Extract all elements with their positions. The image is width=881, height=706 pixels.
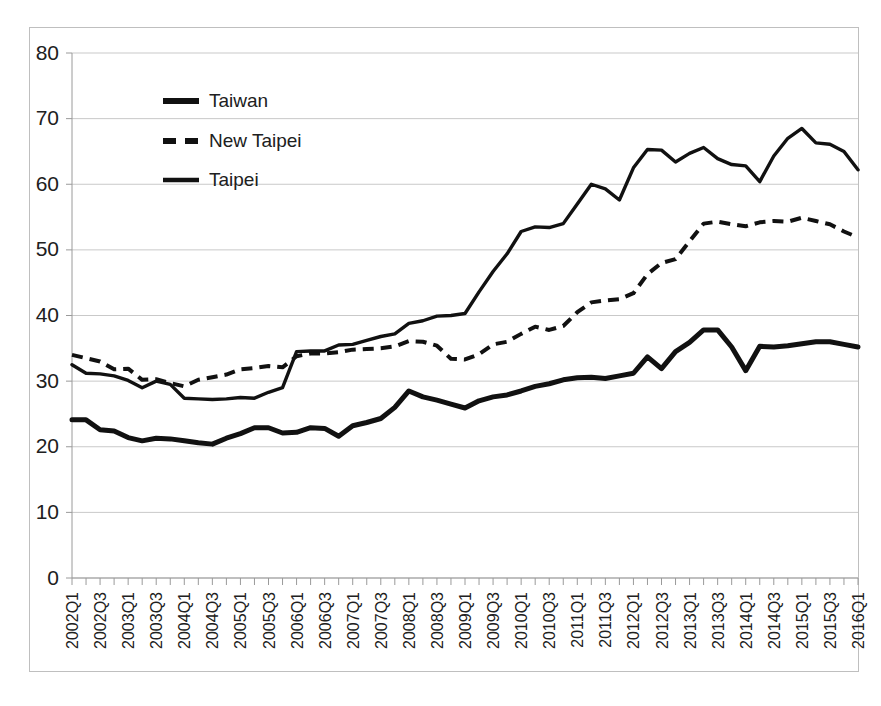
x-tick-label: 2008Q1 xyxy=(401,592,418,649)
x-tick-label: 2012Q3 xyxy=(654,592,671,649)
x-tick-label: 2010Q3 xyxy=(541,592,558,649)
legend-label-taiwan: Taiwan xyxy=(209,90,268,111)
y-tick-label: 80 xyxy=(36,41,59,64)
legend-label-taipei: Taipei xyxy=(209,169,259,190)
x-tick-label: 2015Q3 xyxy=(822,592,839,649)
data-series xyxy=(72,128,858,444)
x-tick-label: 2004Q1 xyxy=(176,592,193,649)
x-tick-label: 2011Q1 xyxy=(569,592,586,648)
x-tick-label: 2007Q3 xyxy=(373,592,390,649)
x-tick-label: 2008Q3 xyxy=(429,592,446,649)
x-tick-label: 2009Q1 xyxy=(457,592,474,649)
x-tick-label: 2007Q1 xyxy=(345,592,362,649)
x-tick-label: 2003Q3 xyxy=(148,592,165,649)
y-tick-label: 30 xyxy=(36,369,59,392)
x-tick-label: 2002Q3 xyxy=(92,592,109,649)
x-tick-label: 2011Q3 xyxy=(597,592,614,648)
y-tick-label: 10 xyxy=(36,500,59,523)
y-tick-label: 70 xyxy=(36,106,59,129)
x-tick-label: 2013Q3 xyxy=(710,592,727,649)
legend-label-new-taipei: New Taipei xyxy=(209,130,302,151)
y-tick-labels: 01020304050607080 xyxy=(36,41,72,589)
x-tick-marks xyxy=(72,578,858,585)
x-tick-label: 2010Q1 xyxy=(513,592,530,649)
x-tick-label: 2016Q1 xyxy=(850,592,867,649)
x-tick-label: 2005Q1 xyxy=(232,592,249,649)
x-tick-label: 2015Q1 xyxy=(794,592,811,649)
x-tick-label: 2014Q3 xyxy=(766,592,783,649)
series-line-taiwan xyxy=(72,330,858,444)
chart-legend: TaiwanNew TaipeiTaipei xyxy=(163,90,302,190)
y-tick-label: 0 xyxy=(47,566,59,589)
chart-container: 2002Q12002Q32003Q12003Q32004Q12004Q32005… xyxy=(0,0,881,706)
y-tick-label: 40 xyxy=(36,303,59,326)
x-tick-label: 2006Q1 xyxy=(289,592,306,649)
x-tick-label: 2004Q3 xyxy=(204,592,221,649)
x-tick-label: 2002Q1 xyxy=(64,592,81,649)
x-tick-label: 2006Q3 xyxy=(317,592,334,649)
x-tick-label: 2009Q3 xyxy=(485,592,502,649)
y-tick-label: 20 xyxy=(36,434,59,457)
x-tick-label: 2014Q1 xyxy=(738,592,755,649)
x-tick-label: 2012Q1 xyxy=(625,592,642,649)
x-tick-label: 2013Q1 xyxy=(682,592,699,649)
gridlines xyxy=(72,53,858,578)
line-chart-plot: 2002Q12002Q32003Q12003Q32004Q12004Q32005… xyxy=(0,0,881,706)
x-tick-label: 2003Q1 xyxy=(120,592,137,649)
x-tick-labels: 2002Q12002Q32003Q12003Q32004Q12004Q32005… xyxy=(64,592,867,649)
y-tick-label: 50 xyxy=(36,237,59,260)
x-tick-label: 2005Q3 xyxy=(261,592,278,649)
y-tick-label: 60 xyxy=(36,172,59,195)
